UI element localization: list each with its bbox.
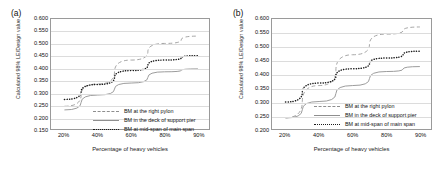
grid-line xyxy=(272,47,431,48)
legend-swatch-dotted-icon xyxy=(314,124,340,126)
grid-line xyxy=(51,94,209,95)
legend-swatch-solid-icon xyxy=(93,120,119,122)
x-tick-label: 90% xyxy=(415,132,426,138)
legend-swatch-dashed-icon xyxy=(93,111,119,113)
legend-swatch-dashed-icon xyxy=(314,106,340,108)
x-tick-label: 60% xyxy=(347,132,358,138)
grid-line xyxy=(272,33,431,34)
grid-line xyxy=(272,61,431,62)
grid-line xyxy=(51,44,209,45)
x-axis-title-a: Percentage of heavy vehicles xyxy=(50,146,210,152)
x-tick-label: 80% xyxy=(381,132,392,138)
chart-panel-b: (b) Calculated 98% LE/Design value 0.600… xyxy=(222,0,444,177)
legend-label: BM at mid-span of main span xyxy=(124,125,194,134)
legend-swatch-dotted-icon xyxy=(93,129,119,131)
y-axis-ticks-b: 0.6000.5500.5000.4500.4000.3500.3000.250… xyxy=(239,18,269,130)
figure-container: (a) Calculated 98% LE/Design value 0.600… xyxy=(0,0,444,177)
legend-a: BM at the right pylonBM in the deck of s… xyxy=(93,107,196,134)
y-tick-label: 0.350 xyxy=(34,77,48,83)
y-tick-label: 0.300 xyxy=(255,99,269,105)
legend-label: BM at the right pylon xyxy=(345,102,394,111)
legend-item: BM at the right pylon xyxy=(93,107,196,116)
legend-item: BM at mid-span of main span xyxy=(93,125,196,134)
y-tick-label: 0.550 xyxy=(34,27,48,33)
x-tick-label: 40% xyxy=(313,132,324,138)
x-axis-title-b: Percentage of heavy vehicles xyxy=(271,146,432,152)
legend-label: BM in the deck of support pier xyxy=(124,116,196,125)
legend-label: BM in the deck of support pier xyxy=(345,111,417,120)
legend-label: BM at the right pylon xyxy=(124,107,173,116)
legend-swatch-solid-icon xyxy=(314,115,340,117)
y-tick-label: 0.400 xyxy=(255,71,269,77)
legend-item: BM at the right pylon xyxy=(314,102,417,111)
grid-line xyxy=(272,75,431,76)
y-tick-label: 0.600 xyxy=(34,15,48,21)
y-axis-ticks-a: 0.6000.5500.5000.4500.4000.3500.3000.250… xyxy=(18,18,48,130)
x-axis-ticks-b: 20%40%60%80%90% xyxy=(271,132,432,144)
series-line xyxy=(64,69,198,110)
legend-label: BM at mid-span of main span xyxy=(345,120,415,129)
y-tick-label: 0.250 xyxy=(255,113,269,119)
y-tick-label: 0.450 xyxy=(255,57,269,63)
y-tick-label: 0.300 xyxy=(34,90,48,96)
legend-item: BM in the deck of support pier xyxy=(93,116,196,125)
y-tick-label: 0.500 xyxy=(255,43,269,49)
y-tick-label: 0.450 xyxy=(34,52,48,58)
y-tick-label: 0.200 xyxy=(34,115,48,121)
grid-line xyxy=(51,81,209,82)
x-tick-label: 20% xyxy=(58,132,69,138)
series-line xyxy=(286,51,420,102)
legend-b: BM at the right pylonBM in the deck of s… xyxy=(314,102,417,129)
grid-line xyxy=(51,56,209,57)
legend-item: BM at mid-span of main span xyxy=(314,120,417,129)
y-tick-label: 0.600 xyxy=(255,15,269,21)
y-tick-label: 0.550 xyxy=(255,29,269,35)
grid-line xyxy=(272,89,431,90)
y-tick-label: 0.200 xyxy=(255,127,269,133)
grid-line xyxy=(51,69,209,70)
y-tick-label: 0.250 xyxy=(34,102,48,108)
legend-item: BM in the deck of support pier xyxy=(314,111,417,120)
y-tick-label: 0.150 xyxy=(34,127,48,133)
y-tick-label: 0.350 xyxy=(255,85,269,91)
chart-panel-a: (a) Calculated 98% LE/Design value 0.600… xyxy=(0,0,222,177)
grid-line xyxy=(51,31,209,32)
y-tick-label: 0.500 xyxy=(34,40,48,46)
x-tick-label: 20% xyxy=(279,132,290,138)
y-tick-label: 0.400 xyxy=(34,65,48,71)
